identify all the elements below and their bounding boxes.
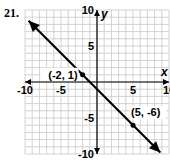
svg-text:-10: -10: [78, 148, 94, 160]
coordinate-plane: xy -10-5510105-5-10 (-2, 1)(5, -6): [0, 0, 170, 160]
svg-text:y: y: [100, 7, 109, 21]
svg-text:(-2, 1): (-2, 1): [48, 69, 78, 81]
svg-text:5: 5: [88, 40, 94, 52]
svg-text:10: 10: [82, 4, 94, 16]
svg-text:(5, -6): (5, -6): [131, 106, 161, 118]
svg-text:5: 5: [130, 84, 136, 96]
svg-text:10: 10: [163, 84, 170, 96]
svg-text:-5: -5: [56, 84, 66, 96]
svg-text:x: x: [160, 65, 169, 79]
svg-text:-5: -5: [84, 112, 94, 124]
svg-text:-10: -10: [17, 84, 33, 96]
